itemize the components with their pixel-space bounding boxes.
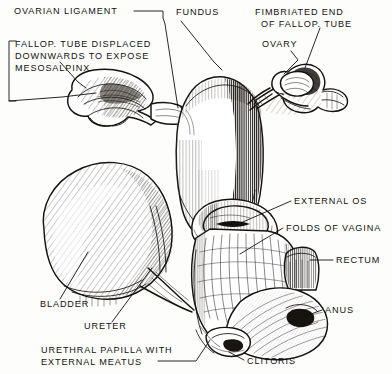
label-urethral-papilla-line2: EXTERNAL MEATUS: [41, 357, 142, 367]
label-fimbriated-end-line2: OF FALLOP. TUBE: [261, 19, 352, 29]
structure-rectum: [284, 247, 320, 292]
anatomy-illustration-svg: OVARIAN LIGAMENT FUNDUS FIMBRIATED END O…: [0, 0, 392, 374]
label-bladder: BLADDER: [40, 299, 89, 309]
label-urethral-papilla-line1: URETHRAL PAPILLA WITH: [41, 345, 173, 355]
anatomical-figure: OVARIAN LIGAMENT FUNDUS FIMBRIATED END O…: [0, 0, 392, 374]
label-clitoris: CLITORIS: [247, 356, 296, 366]
label-ovarian-ligament: OVARIAN LIGAMENT: [14, 6, 118, 16]
label-fallop-displaced-line2: DOWNWARDS TO EXPOSE: [15, 51, 149, 61]
label-fundus: FUNDUS: [176, 7, 219, 17]
structure-ovary: [280, 72, 313, 97]
label-fallop-displaced-line3: MESOSALPINX: [15, 63, 90, 73]
label-fimbriated-end-line1: FIMBRIATED END: [255, 7, 344, 17]
label-ureter: URETER: [84, 321, 127, 331]
label-anus: ANUS: [325, 305, 354, 315]
label-folds-of-vagina: FOLDS OF VAGINA: [286, 223, 381, 233]
label-rectum: RECTUM: [336, 255, 380, 265]
label-ovary: OVARY: [262, 39, 298, 49]
label-external-os: EXTERNAL OS: [294, 196, 367, 206]
label-fallop-displaced-line1: FALLOP. TUBE DISPLACED: [15, 39, 151, 49]
